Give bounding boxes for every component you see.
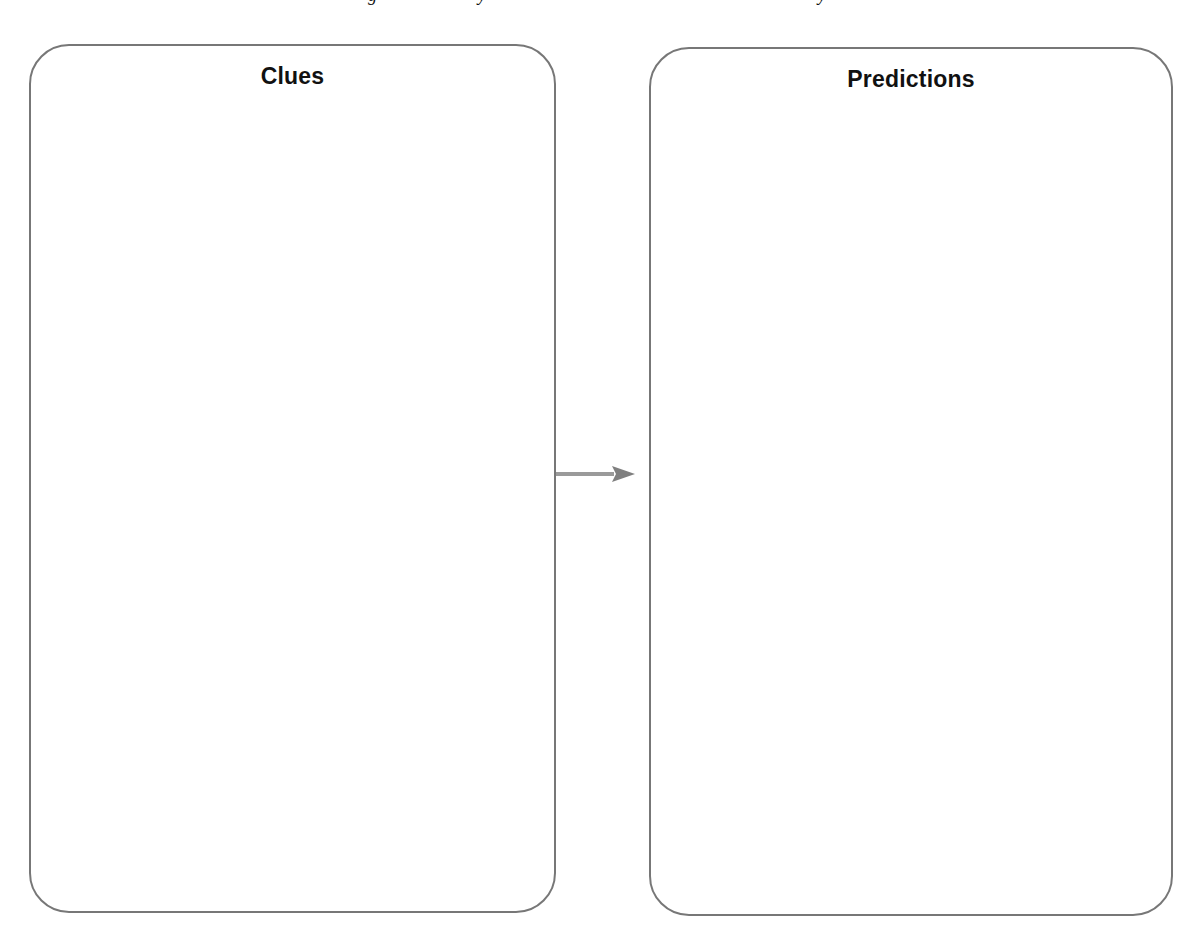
clues-writing-area[interactable]	[51, 106, 534, 891]
clipped-glyph: g	[368, 0, 377, 4]
right-arrow-icon	[556, 464, 636, 484]
clues-panel-title: Clues	[31, 61, 554, 91]
predictions-panel: Predictions	[649, 47, 1173, 916]
clues-panel: Clues	[29, 44, 556, 913]
predictions-panel-title: Predictions	[651, 64, 1171, 94]
predictions-writing-area[interactable]	[671, 109, 1151, 894]
clipped-instruction-line: g y y	[0, 0, 1199, 6]
clipped-glyph: y	[818, 0, 826, 4]
clipped-glyph: y	[478, 0, 486, 4]
